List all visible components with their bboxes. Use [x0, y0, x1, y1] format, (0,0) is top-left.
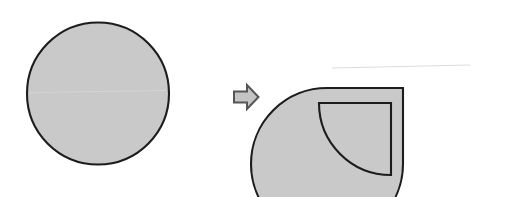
arrow-right-icon — [234, 85, 259, 109]
whole-circle — [27, 23, 169, 165]
geometry-figure: Circle divided into a three-quarter sect… — [0, 0, 510, 197]
three-quarter-sector-sheen — [332, 65, 470, 68]
transformation-arrow — [234, 85, 259, 109]
panel-after — [251, 65, 470, 197]
figure-canvas: Circle divided into a three-quarter sect… — [0, 0, 510, 197]
panel-before — [27, 23, 169, 165]
